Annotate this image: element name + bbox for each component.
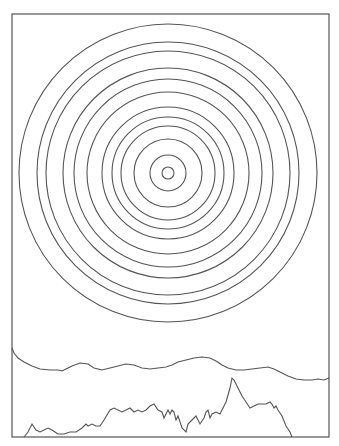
lower-mountain-ridge: [24, 378, 292, 437]
ring-9: [63, 68, 273, 278]
ring-5: [112, 117, 224, 229]
ring-7: [87, 92, 249, 254]
ring-2: [150, 155, 186, 191]
drawing-frame: [12, 14, 329, 437]
ring-12: [19, 24, 317, 322]
ring-6: [102, 107, 234, 239]
ring-1: [162, 167, 174, 179]
ring-11: [37, 42, 299, 304]
ring-10: [46, 51, 290, 295]
concentric-circles: [19, 24, 317, 322]
ring-4: [121, 126, 215, 220]
concentric-circles-drawing: [0, 0, 339, 446]
upper-mountain-ridge: [12, 348, 329, 380]
ring-3: [134, 139, 202, 207]
